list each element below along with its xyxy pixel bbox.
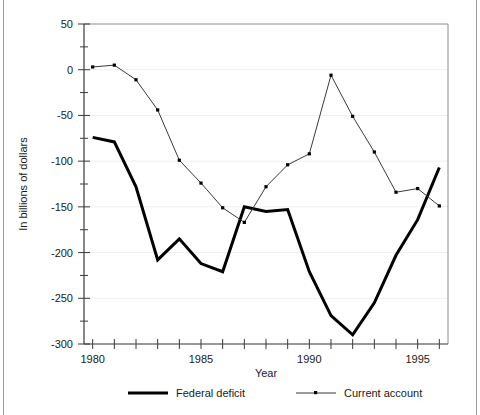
y-tick-label: -50 bbox=[57, 109, 73, 121]
data-point-marker bbox=[134, 78, 137, 81]
data-series-group bbox=[91, 64, 441, 335]
data-point-marker bbox=[394, 191, 397, 194]
data-point-marker bbox=[221, 206, 224, 209]
x-tick-label: 1985 bbox=[189, 353, 213, 365]
x-axis-title: Year bbox=[255, 367, 278, 379]
y-tick-label: 50 bbox=[61, 18, 73, 30]
data-point-marker bbox=[113, 64, 116, 67]
data-point-marker bbox=[199, 181, 202, 184]
y-tick-label: -100 bbox=[51, 155, 73, 167]
data-point-marker bbox=[178, 159, 181, 162]
x-tick-label: 1990 bbox=[297, 353, 321, 365]
series-line-current-account bbox=[93, 65, 440, 222]
gridlines-group bbox=[84, 70, 448, 344]
data-point-marker bbox=[416, 187, 419, 190]
y-axis-title: In billions of dollars bbox=[17, 137, 29, 231]
x-tick-group: 1980198519901995 bbox=[80, 339, 439, 365]
y-tick-label: 0 bbox=[67, 64, 73, 76]
figure-container: 500-50-100-150-200-250-300 1980198519901… bbox=[0, 0, 480, 415]
data-point-marker bbox=[351, 115, 354, 118]
chart-legend: Federal deficit Current account bbox=[128, 387, 422, 399]
data-point-marker bbox=[438, 204, 441, 207]
data-point-marker bbox=[264, 185, 267, 188]
data-point-marker bbox=[373, 150, 376, 153]
y-tick-label: -250 bbox=[51, 292, 73, 304]
line-chart: 500-50-100-150-200-250-300 1980198519901… bbox=[0, 0, 480, 415]
x-tick-label: 1995 bbox=[405, 353, 429, 365]
x-tick-label: 1980 bbox=[80, 353, 104, 365]
series-line-federal-deficit bbox=[93, 137, 440, 334]
data-point-marker bbox=[91, 65, 94, 68]
y-tick-label: -300 bbox=[51, 338, 73, 350]
data-point-marker bbox=[286, 163, 289, 166]
legend-label-current-account: Current account bbox=[344, 387, 422, 399]
y-tick-label: -200 bbox=[51, 247, 73, 259]
legend-label-federal-deficit: Federal deficit bbox=[176, 387, 245, 399]
data-point-marker bbox=[243, 221, 246, 224]
legend-marker-current-account bbox=[314, 391, 317, 394]
y-tick-label: -150 bbox=[51, 201, 73, 213]
data-point-marker bbox=[156, 108, 159, 111]
data-point-marker bbox=[329, 74, 332, 77]
data-point-marker bbox=[308, 152, 311, 155]
